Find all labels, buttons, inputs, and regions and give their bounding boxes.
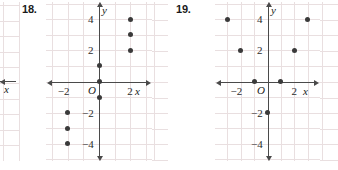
gridline-horizontal	[0, 99, 20, 100]
data-point	[65, 141, 70, 146]
gridline-horizontal	[320, 160, 338, 161]
data-point	[238, 48, 243, 53]
grid-lines	[320, 2, 338, 161]
gridline-horizontal	[152, 20, 168, 21]
data-point	[265, 110, 270, 115]
graph-fragment-right	[320, 2, 338, 161]
coordinate-plane-18: −2242−2−4Oxy	[46, 2, 152, 161]
data-point	[65, 110, 70, 115]
x-axis-label: x	[4, 84, 9, 95]
data-point	[97, 63, 102, 68]
data-point	[128, 32, 133, 37]
data-point	[97, 95, 102, 100]
data-point	[65, 126, 70, 131]
plotted-points	[46, 2, 152, 161]
data-point	[292, 48, 297, 53]
gridline-horizontal	[320, 113, 338, 114]
grid-lines	[152, 2, 168, 161]
gridline-horizontal	[0, 52, 20, 53]
graph-fragment-mid	[152, 2, 168, 161]
exercise-number-19: 19.	[176, 4, 191, 15]
gridline-horizontal	[152, 4, 168, 5]
gridline-horizontal	[320, 82, 338, 83]
gridline-horizontal	[320, 4, 338, 5]
gridline-horizontal	[152, 98, 168, 99]
gridline-horizontal	[152, 66, 168, 67]
gridline-horizontal	[152, 35, 168, 36]
gridline-horizontal	[320, 20, 338, 21]
worksheet-page: x 18. −2242−2−4Oxy 19. −2242−2−4Oxy	[0, 0, 338, 170]
data-point	[305, 17, 310, 22]
gridline-horizontal	[152, 51, 168, 52]
gridline-horizontal	[320, 98, 338, 99]
gridline-horizontal	[0, 114, 20, 115]
gridline-horizontal	[152, 160, 168, 161]
gridline-horizontal	[0, 36, 20, 37]
plotted-points	[215, 2, 320, 161]
data-point	[97, 79, 102, 84]
gridline-horizontal	[152, 113, 168, 114]
graph-fragment-left: x	[0, 2, 20, 161]
gridline-vertical	[19, 2, 20, 161]
data-point	[128, 17, 133, 22]
exercise-number-18: 18.	[22, 4, 37, 15]
gridline-horizontal	[320, 66, 338, 67]
gridline-horizontal	[152, 82, 168, 83]
data-point	[225, 17, 230, 22]
data-point	[278, 79, 283, 84]
gridline-horizontal	[0, 130, 20, 131]
gridline-horizontal	[0, 21, 20, 22]
gridline-horizontal	[0, 145, 20, 146]
coordinate-plane-19: −2242−2−4Oxy	[215, 2, 320, 161]
data-point	[128, 48, 133, 53]
gridline-horizontal	[320, 129, 338, 130]
gridline-horizontal	[0, 5, 20, 6]
gridline-horizontal	[320, 144, 338, 145]
data-point	[252, 79, 257, 84]
gridline-horizontal	[320, 35, 338, 36]
gridline-horizontal	[320, 51, 338, 52]
gridline-horizontal	[0, 67, 20, 68]
gridline-horizontal	[152, 129, 168, 130]
gridline-horizontal	[152, 144, 168, 145]
